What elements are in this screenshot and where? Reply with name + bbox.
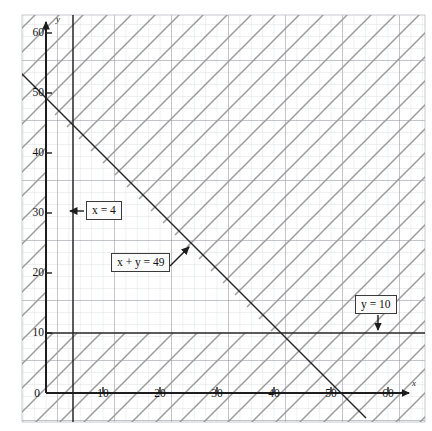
y-tick-40: 40 (22, 146, 44, 158)
x-tick-60: 60 (377, 387, 399, 399)
coordinate-plane (0, 0, 432, 431)
y-tick-60: 60 (22, 26, 44, 38)
y-axis-name: y (56, 14, 60, 24)
callout-x-equals-4: x = 4 (86, 201, 122, 220)
x-tick-20: 20 (149, 387, 171, 399)
x-axis-name: x (412, 378, 416, 388)
x-tick-40: 40 (263, 387, 285, 399)
y-tick-10: 10 (22, 326, 44, 338)
callout-y-equals-10: y = 10 (355, 295, 397, 314)
x-tick-30: 30 (206, 387, 228, 399)
x-tick-50: 50 (320, 387, 342, 399)
graph-figure: y x 0 10 20 30 40 50 60 10 20 30 40 50 6… (0, 0, 432, 431)
y-tick-30: 30 (22, 206, 44, 218)
x-tick-0: 0 (30, 387, 44, 399)
x-tick-10: 10 (92, 387, 114, 399)
y-tick-50: 50 (22, 86, 44, 98)
y-tick-20: 20 (22, 266, 44, 278)
callout-x-plus-y-equals-49: x + y = 49 (111, 253, 170, 272)
